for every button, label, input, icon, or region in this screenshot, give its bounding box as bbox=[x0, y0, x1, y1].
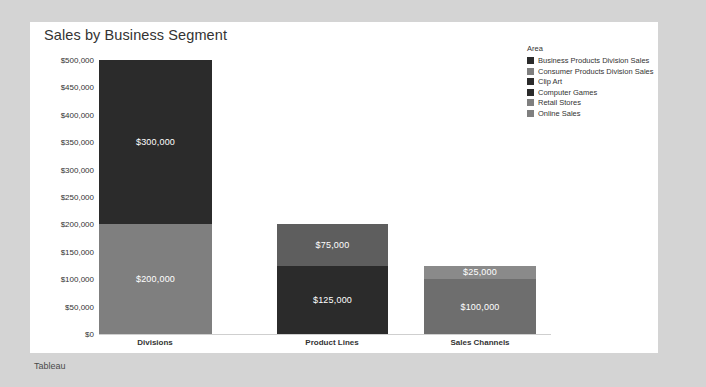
bar-value-label: $125,000 bbox=[313, 295, 352, 305]
y-axis: $0$50,000$100,000$150,000$200,000$250,00… bbox=[30, 60, 94, 334]
x-axis-line bbox=[99, 334, 551, 335]
bar-value-label: $300,000 bbox=[136, 137, 175, 147]
legend-swatch-icon bbox=[527, 89, 534, 96]
bar-sales-channels[interactable]: $25,000$100,000 bbox=[424, 266, 536, 334]
x-axis-tick: Product Lines bbox=[305, 338, 358, 347]
legend-item-label: Computer Games bbox=[538, 88, 597, 97]
plot-area: $300,000$200,000$75,000$125,000$25,000$1… bbox=[99, 60, 549, 334]
y-axis-tick: $300,000 bbox=[61, 165, 94, 174]
y-axis-tick: $450,000 bbox=[61, 83, 94, 92]
legend-item[interactable]: Clip Art bbox=[527, 77, 655, 86]
y-axis-tick: $100,000 bbox=[61, 275, 94, 284]
legend-item-label: Retail Stores bbox=[538, 98, 581, 107]
legend-swatch-icon bbox=[527, 99, 534, 106]
bar-value-label: $100,000 bbox=[460, 302, 499, 312]
legend-item-label: Clip Art bbox=[538, 77, 562, 86]
legend-item-list: Business Products Division SalesConsumer… bbox=[527, 56, 655, 118]
x-axis-tick: Sales Channels bbox=[450, 338, 509, 347]
y-axis-tick: $0 bbox=[85, 330, 94, 339]
y-axis-tick: $250,000 bbox=[61, 193, 94, 202]
bar-segment[interactable]: $25,000 bbox=[424, 266, 536, 280]
y-axis-tick: $50,000 bbox=[65, 302, 94, 311]
legend-item[interactable]: Computer Games bbox=[527, 88, 655, 97]
y-axis-tick: $150,000 bbox=[61, 247, 94, 256]
x-axis-tick: Divisions bbox=[137, 338, 173, 347]
bar-product-lines[interactable]: $75,000$125,000 bbox=[277, 224, 388, 334]
y-axis-tick: $350,000 bbox=[61, 138, 94, 147]
legend-swatch-icon bbox=[527, 68, 534, 75]
legend-swatch-icon bbox=[527, 57, 534, 64]
legend-item-label: Consumer Products Division Sales bbox=[538, 67, 653, 76]
bar-segment[interactable]: $300,000 bbox=[99, 60, 212, 224]
legend-item[interactable]: Retail Stores bbox=[527, 98, 655, 107]
legend-item[interactable]: Consumer Products Division Sales bbox=[527, 67, 655, 76]
legend-item[interactable]: Online Sales bbox=[527, 109, 655, 118]
bar-segment[interactable]: $75,000 bbox=[277, 224, 388, 265]
legend-item-label: Business Products Division Sales bbox=[538, 56, 649, 65]
legend-item-label: Online Sales bbox=[538, 109, 581, 118]
y-axis-tick: $500,000 bbox=[61, 56, 94, 65]
y-axis-tick: $400,000 bbox=[61, 110, 94, 119]
legend-swatch-icon bbox=[527, 78, 534, 85]
legend-swatch-icon bbox=[527, 110, 534, 117]
bar-segment[interactable]: $125,000 bbox=[277, 266, 388, 335]
viz-panel: Sales by Business Segment $0$50,000$100,… bbox=[30, 22, 658, 353]
legend-title: Area bbox=[527, 44, 655, 53]
bar-value-label: $25,000 bbox=[463, 267, 497, 277]
bar-value-label: $75,000 bbox=[316, 240, 350, 250]
legend-item[interactable]: Business Products Division Sales bbox=[527, 56, 655, 65]
bar-segment[interactable]: $200,000 bbox=[99, 224, 212, 334]
bar-value-label: $200,000 bbox=[136, 274, 175, 284]
page-title: Sales by Business Segment bbox=[44, 27, 227, 43]
bar-segment[interactable]: $100,000 bbox=[424, 279, 536, 334]
bar-divisions[interactable]: $300,000$200,000 bbox=[99, 60, 212, 334]
footer-brand: Tableau bbox=[34, 361, 66, 371]
legend: Area Business Products Division SalesCon… bbox=[527, 44, 655, 119]
y-axis-tick: $200,000 bbox=[61, 220, 94, 229]
